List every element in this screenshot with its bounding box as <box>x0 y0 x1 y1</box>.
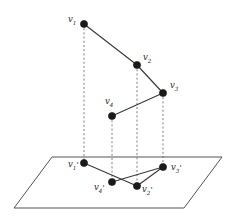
vertex-v3p[interactable] <box>159 163 166 170</box>
vertex-v4p[interactable] <box>108 178 115 185</box>
label-v4: v4 <box>105 96 114 108</box>
vertex-v1p[interactable] <box>80 159 87 166</box>
space-edge-v1-v2 <box>84 24 137 65</box>
label-v2p: v2' <box>142 184 153 196</box>
space-edge-v3-v4 <box>112 93 163 116</box>
projected-edge-v3p-v4p <box>112 167 163 182</box>
label-v1p: v1' <box>68 159 79 171</box>
projection-rays-group <box>84 24 163 186</box>
plane-group <box>14 157 222 208</box>
space-polyline-group <box>84 24 163 116</box>
label-v4p: v4' <box>94 182 105 194</box>
vertex-v2p[interactable] <box>133 182 140 189</box>
vertex-v3[interactable] <box>159 89 166 96</box>
label-v1: v1 <box>68 14 76 26</box>
vertex-v4[interactable] <box>108 112 115 119</box>
space-edge-v2-v3 <box>137 65 163 93</box>
diagram-canvas: v1v2v3v4v1'v2'v3'v4' <box>0 0 235 217</box>
projection-diagram: v1v2v3v4v1'v2'v3'v4' <box>0 0 235 217</box>
projection-plane <box>14 157 222 208</box>
vertex-v2[interactable] <box>133 61 140 68</box>
vertex-v1[interactable] <box>80 20 87 27</box>
label-v2: v2 <box>143 52 152 64</box>
label-v3p: v3' <box>171 162 182 174</box>
space-vertices-group <box>80 20 166 119</box>
label-v3: v3 <box>170 80 179 92</box>
projected-edge-v2p-v3p <box>137 167 163 186</box>
